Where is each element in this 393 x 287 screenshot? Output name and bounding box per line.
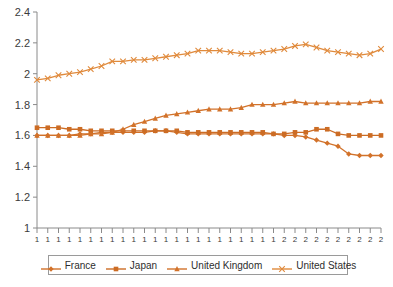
data-point-marker — [293, 130, 298, 135]
united-kingdom-marker-icon — [166, 260, 188, 270]
legend-item-france[interactable]: France — [40, 260, 96, 271]
legend-item-united-kingdom[interactable]: United Kingdom — [166, 260, 262, 271]
x-tick-label: 1 — [185, 235, 190, 244]
japan-marker-icon — [105, 260, 127, 270]
x-tick-label: 1 — [121, 235, 126, 244]
x-tick-label: 1 — [99, 235, 104, 244]
data-point-marker — [239, 130, 244, 135]
x-tick-label: 1 — [67, 235, 72, 244]
chart-legend: France Japan United Kingdom United State… — [48, 255, 348, 275]
data-point-marker — [196, 130, 201, 135]
x-tick-label: 2 — [357, 235, 362, 244]
legend-label: Japan — [130, 260, 157, 271]
legend-item-japan[interactable]: Japan — [105, 260, 157, 271]
x-tick-label: 1 — [175, 235, 180, 244]
x-tick-label: 1 — [78, 235, 83, 244]
x-tick-label: 1 — [261, 235, 266, 244]
y-tick-label: 2.2 — [15, 37, 30, 49]
united-states-marker-icon — [271, 260, 293, 270]
data-point-marker — [35, 125, 40, 130]
x-tick-label: 1 — [132, 235, 137, 244]
x-tick-label: 1 — [89, 235, 94, 244]
data-point-marker — [303, 130, 308, 135]
y-tick-label: 2.4 — [15, 6, 30, 18]
legend-label: United States — [296, 260, 356, 271]
legend-item-united-states[interactable]: United States — [271, 260, 356, 271]
data-point-marker — [378, 46, 384, 52]
x-tick-label: 1 — [207, 235, 212, 244]
line-chart: 11.21.41.61.822.22.4 1111111111111111111… — [0, 0, 393, 287]
data-point-marker — [67, 127, 72, 132]
data-point-marker — [174, 129, 179, 134]
y-tick-label: 1 — [24, 222, 30, 234]
x-tick-label: 1 — [46, 235, 51, 244]
data-point-marker — [78, 127, 83, 132]
x-tick-label: 2 — [282, 235, 287, 244]
data-point-marker — [271, 132, 276, 137]
data-point-marker — [314, 127, 319, 132]
data-point-marker — [378, 153, 383, 158]
x-tick-label: 1 — [271, 235, 276, 244]
data-point-marker — [228, 130, 233, 135]
x-tick-label: 1 — [142, 235, 147, 244]
legend-label: France — [65, 260, 96, 271]
series-polyline — [37, 44, 381, 79]
series-united-states — [34, 42, 384, 83]
data-point-marker — [357, 133, 362, 138]
data-point-marker — [56, 125, 61, 130]
data-point-marker — [325, 140, 330, 145]
data-point-marker — [379, 133, 384, 138]
x-tick-label: 2 — [336, 235, 341, 244]
x-tick-label: 2 — [293, 235, 298, 244]
data-point-marker — [131, 129, 136, 134]
data-point-marker — [142, 129, 147, 134]
x-tick-label: 2 — [379, 235, 384, 244]
x-tick-label: 1 — [228, 235, 233, 244]
x-axis: 111111111111111111111112222222222 — [35, 228, 384, 244]
x-tick-label: 1 — [56, 235, 61, 244]
data-point-marker — [368, 153, 373, 158]
data-point-marker — [357, 153, 362, 158]
x-tick-label: 2 — [314, 235, 319, 244]
data-point-marker — [314, 137, 319, 142]
y-tick-label: 1.2 — [15, 191, 30, 203]
legend-label: United Kingdom — [191, 260, 262, 271]
data-point-marker — [260, 130, 265, 135]
x-tick-label: 2 — [304, 235, 309, 244]
data-point-marker — [336, 132, 341, 137]
x-tick-label: 1 — [35, 235, 40, 244]
data-point-marker — [153, 129, 158, 134]
x-tick-label: 1 — [239, 235, 244, 244]
x-tick-label: 1 — [153, 235, 158, 244]
x-tick-label: 2 — [347, 235, 352, 244]
x-tick-label: 2 — [368, 235, 373, 244]
y-tick-label: 1.8 — [15, 99, 30, 111]
x-tick-label: 1 — [110, 235, 115, 244]
y-tick-label: 1.6 — [15, 129, 30, 141]
x-tick-label: 1 — [196, 235, 201, 244]
x-tick-label: 1 — [164, 235, 169, 244]
data-point-marker — [185, 130, 190, 135]
data-point-marker — [282, 132, 287, 137]
y-tick-label: 2 — [24, 68, 30, 80]
data-point-marker — [368, 133, 373, 138]
data-point-marker — [48, 266, 53, 271]
data-point-marker — [346, 133, 351, 138]
y-tick-label: 1.4 — [15, 160, 30, 172]
data-point-marker — [164, 129, 169, 134]
data-point-marker — [207, 130, 212, 135]
x-tick-label: 1 — [250, 235, 255, 244]
plot-area: 11.21.41.61.822.22.4 1111111111111111111… — [0, 0, 393, 287]
data-point-marker — [325, 127, 330, 132]
data-point-marker — [303, 134, 308, 139]
x-tick-label: 2 — [325, 235, 330, 244]
x-tick-label: 1 — [218, 235, 223, 244]
data-point-marker — [217, 130, 222, 135]
data-point-marker — [45, 125, 50, 130]
y-axis: 11.21.41.61.822.22.4 — [15, 6, 37, 234]
series-layer — [34, 42, 384, 159]
data-point-marker — [114, 267, 119, 272]
data-point-marker — [250, 130, 255, 135]
france-marker-icon — [40, 260, 62, 270]
